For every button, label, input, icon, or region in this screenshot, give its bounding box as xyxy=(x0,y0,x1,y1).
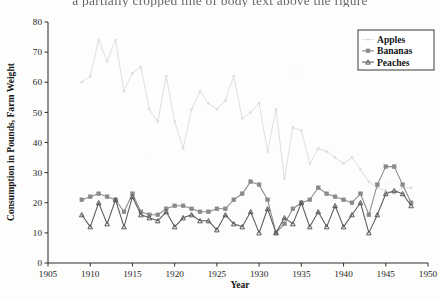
y-tick-label: 60 xyxy=(33,77,43,87)
legend-label: Peaches xyxy=(377,57,410,68)
data-point xyxy=(257,183,261,187)
x-tick-label: 1945 xyxy=(377,269,396,279)
data-point xyxy=(181,204,185,208)
data-point xyxy=(198,210,202,214)
data-point xyxy=(342,198,346,202)
data-point xyxy=(283,222,287,226)
x-axis-title: Year xyxy=(230,279,250,290)
x-tick-label: 1920 xyxy=(165,269,184,279)
chart-legend[interactable]: ApplesBananasPeaches xyxy=(358,30,434,70)
y-tick-label: 80 xyxy=(33,17,43,27)
data-point xyxy=(81,81,83,83)
x-tick-label: 1935 xyxy=(292,269,311,279)
series-bananas xyxy=(80,165,413,235)
data-point xyxy=(114,39,116,41)
data-point xyxy=(224,99,226,101)
data-point xyxy=(207,102,209,104)
x-tick-label: 1930 xyxy=(250,269,269,279)
data-point xyxy=(207,210,211,214)
data-point xyxy=(410,187,412,189)
data-point xyxy=(350,201,354,205)
data-point xyxy=(392,165,396,169)
chart-figure: 01020304050607080 1905191019151920192519… xyxy=(0,0,440,300)
data-point xyxy=(368,181,370,183)
data-point xyxy=(190,108,192,110)
data-point xyxy=(359,192,363,196)
y-tick-label: 50 xyxy=(33,108,43,118)
legend-label: Bananas xyxy=(377,45,412,56)
series-peaches xyxy=(79,188,413,234)
data-point xyxy=(283,178,285,180)
data-point xyxy=(342,162,344,164)
data-point xyxy=(157,120,159,122)
scanned-page: a partially cropped line of body text ab… xyxy=(0,0,440,300)
data-point xyxy=(98,39,100,41)
data-point xyxy=(199,90,201,92)
data-point xyxy=(249,180,253,184)
data-point xyxy=(333,195,337,199)
data-point xyxy=(275,108,277,110)
x-tick-label: 1910 xyxy=(81,269,100,279)
data-point xyxy=(375,183,379,187)
data-point xyxy=(317,147,319,149)
data-point xyxy=(131,72,133,74)
data-point xyxy=(367,213,371,217)
data-point xyxy=(325,192,329,196)
data-point xyxy=(165,75,167,77)
x-tick-label: 1915 xyxy=(123,269,142,279)
y-tick-label: 0 xyxy=(37,258,42,268)
data-point xyxy=(334,156,336,158)
data-point xyxy=(190,207,194,211)
data-point xyxy=(359,168,361,170)
data-point xyxy=(174,120,176,122)
data-point xyxy=(384,165,388,169)
data-point xyxy=(309,162,311,164)
y-axis-title: Consumption in Pounds, Farm Weight xyxy=(5,62,16,221)
data-point xyxy=(173,204,177,208)
data-point xyxy=(308,198,312,202)
data-point xyxy=(122,210,126,214)
x-tick-label: 1905 xyxy=(39,269,58,279)
y-axis-ticks: 01020304050607080 xyxy=(33,17,48,268)
data-point xyxy=(258,102,260,104)
data-point xyxy=(182,147,184,149)
data-point xyxy=(106,60,108,62)
y-tick-label: 30 xyxy=(33,168,43,178)
data-point xyxy=(88,195,92,199)
data-point xyxy=(241,117,243,119)
x-tick-label: 1940 xyxy=(334,269,353,279)
data-point xyxy=(292,126,294,128)
y-tick-label: 10 xyxy=(33,228,43,238)
data-point xyxy=(240,192,244,196)
data-point xyxy=(316,186,320,190)
x-tick-label: 1925 xyxy=(208,269,227,279)
data-point xyxy=(156,213,160,217)
data-point xyxy=(366,49,370,53)
data-point xyxy=(326,150,328,152)
data-point xyxy=(351,156,353,158)
data-point xyxy=(233,75,235,77)
data-point xyxy=(80,198,84,202)
line-chart: 01020304050607080 1905191019151920192519… xyxy=(0,0,440,300)
data-point xyxy=(367,38,369,40)
data-point xyxy=(223,207,227,211)
data-point xyxy=(401,183,405,187)
x-axis-ticks: 1905191019151920192519301935194019451950 xyxy=(39,263,438,279)
data-point xyxy=(105,195,109,199)
y-tick-label: 20 xyxy=(33,198,43,208)
data-point xyxy=(300,129,302,131)
data-point xyxy=(97,192,101,196)
legend-label: Apples xyxy=(377,34,406,45)
data-point xyxy=(266,198,270,202)
data-point xyxy=(291,207,295,211)
data-point xyxy=(250,111,252,113)
data-point xyxy=(140,66,142,68)
data-point xyxy=(216,108,218,110)
data-point xyxy=(148,108,150,110)
data-point xyxy=(232,198,236,202)
y-tick-label: 40 xyxy=(33,138,43,148)
data-point xyxy=(89,75,91,77)
data-point xyxy=(266,150,268,152)
data-point xyxy=(123,90,125,92)
x-tick-label: 1950 xyxy=(419,269,438,279)
